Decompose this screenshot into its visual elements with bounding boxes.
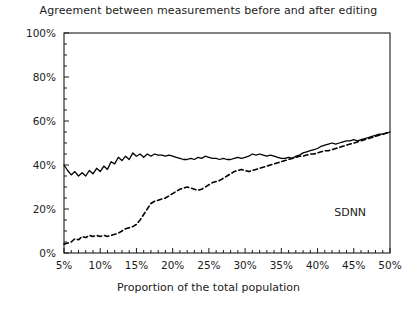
y-tick-label: 100% [26, 27, 56, 39]
chart-plot-area: 0%20%40%60%80%100% 5%10%15%20%25%30%35%4… [0, 0, 417, 310]
x-tick-label: 15% [125, 259, 148, 271]
x-tick-label: 20% [161, 259, 184, 271]
x-axis-label: Proportion of the total population [0, 281, 417, 294]
series-dashed-curve [64, 132, 390, 244]
y-axis-ticks: 0%20%40%60%80%100% [26, 27, 69, 259]
y-tick-label: 40% [33, 159, 56, 171]
x-tick-label: 40% [306, 259, 329, 271]
x-tick-label: 45% [342, 259, 365, 271]
series-solid-curve [64, 132, 390, 176]
x-tick-label: 5% [56, 259, 73, 271]
y-tick-label: 80% [33, 71, 56, 83]
y-tick-label: 0% [39, 247, 56, 259]
chart-annotations: SDNN [334, 206, 366, 219]
x-tick-label: 25% [197, 259, 220, 271]
x-tick-label: 50% [378, 259, 401, 271]
series-annotation-sdnn: SDNN [334, 206, 366, 219]
x-tick-label: 10% [89, 259, 112, 271]
x-axis-ticks: 5%10%15%20%25%30%35%40%45%50% [56, 248, 402, 271]
data-series-layer [64, 132, 390, 244]
x-tick-label: 30% [233, 259, 256, 271]
y-tick-label: 20% [33, 203, 56, 215]
y-tick-label: 60% [33, 115, 56, 127]
x-tick-label: 35% [270, 259, 293, 271]
chart-figure: Agreement between measurements before an… [0, 0, 417, 310]
